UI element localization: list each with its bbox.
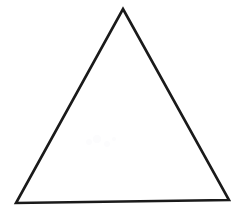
figure-canvas: Triangle Outline drawing of a triangle: [0, 0, 233, 208]
triangle-shape: [16, 9, 229, 203]
triangle-svg: Outline drawing of a triangle: [0, 0, 233, 208]
